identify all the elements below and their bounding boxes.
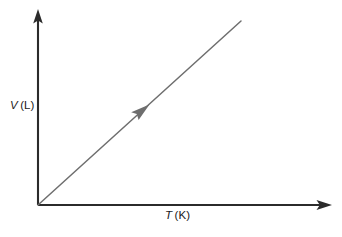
plot-canvas xyxy=(0,0,342,237)
y-axis-symbol: V xyxy=(10,99,18,111)
x-axis-label: T (K) xyxy=(165,210,190,222)
x-axis-unit: (K) xyxy=(175,209,191,221)
y-axis-label: V (L) xyxy=(10,100,35,112)
y-axis-unit: (L) xyxy=(20,99,34,111)
figure-root: V (L) T (K) xyxy=(0,0,342,237)
